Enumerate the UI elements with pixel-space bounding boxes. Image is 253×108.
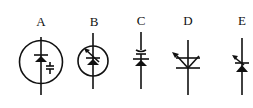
symbols-drawing [0, 0, 253, 108]
diagram-canvas: A B C D E [0, 0, 253, 108]
symbol-d-variable-triode-icon [172, 40, 200, 95]
symbol-a-diode-circle-icon [20, 37, 63, 95]
symbol-e-variable-diode-icon [232, 38, 249, 95]
symbol-b-variable-diode-circle-icon [78, 33, 108, 89]
symbol-c-diode-capacitor-icon [133, 32, 149, 89]
